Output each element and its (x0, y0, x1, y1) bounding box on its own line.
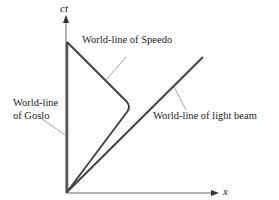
ct-axis-label: ct (60, 2, 68, 14)
light-beam-world-line (67, 57, 203, 192)
light-beam-label: World-line of light beam (153, 110, 257, 122)
x-axis-label: x (223, 185, 228, 197)
light-beam-leader-line (174, 87, 186, 110)
speedo-leader-line (105, 57, 126, 81)
x-axis-arrow-icon (211, 190, 219, 196)
ct-axis-arrow-icon (63, 15, 69, 23)
speedo-label: World-line of Speedo (82, 34, 172, 46)
goslo-label-line2: of Goslo (13, 110, 49, 122)
goslo-label-line1: World-line (13, 97, 58, 109)
